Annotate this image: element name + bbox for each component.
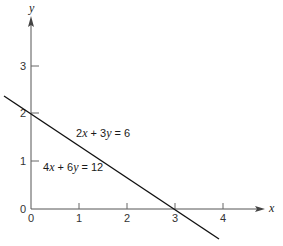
x-tick-2: 2 bbox=[124, 212, 130, 224]
x-tick-4: 4 bbox=[220, 212, 226, 224]
chart-area: x 0 1 2 3 4 y 0 1 2 3 2x + 3y = 6 4x + 6… bbox=[0, 0, 283, 246]
x-tick-0: 0 bbox=[28, 212, 34, 224]
y-axis-label: y bbox=[28, 1, 35, 15]
x-axis-label: x bbox=[268, 201, 275, 215]
equation-label-2x-3y-6: 2x + 3y = 6 bbox=[76, 126, 130, 140]
x-tick-3: 3 bbox=[172, 212, 178, 224]
y-tick-3: 3 bbox=[20, 60, 26, 72]
equation-line bbox=[4, 96, 219, 239]
x-tick-1: 1 bbox=[76, 212, 82, 224]
x-axis: x 0 1 2 3 4 bbox=[28, 201, 275, 224]
equation-label-4x-6y-12: 4x + 6y = 12 bbox=[43, 160, 103, 174]
y-tick-0: 0 bbox=[20, 203, 26, 215]
y-tick-1: 1 bbox=[20, 155, 26, 167]
